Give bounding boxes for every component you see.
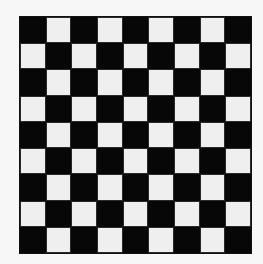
board-square <box>225 96 251 122</box>
board-square <box>123 96 149 122</box>
board-square <box>200 122 226 148</box>
board-square <box>225 227 251 253</box>
board-square <box>71 17 97 43</box>
board-square <box>46 148 72 174</box>
board-square <box>148 122 174 148</box>
board-square <box>148 96 174 122</box>
board-square <box>97 148 123 174</box>
board-square <box>46 174 72 200</box>
board-square <box>174 43 200 69</box>
board-square <box>123 201 149 227</box>
board-square <box>71 148 97 174</box>
board-square <box>200 17 226 43</box>
board-square <box>46 17 72 43</box>
board-square <box>46 122 72 148</box>
board-square <box>225 148 251 174</box>
board-square <box>200 96 226 122</box>
board-square <box>46 201 72 227</box>
board-square <box>123 69 149 95</box>
board-square <box>71 69 97 95</box>
board-square <box>174 17 200 43</box>
board-square <box>200 174 226 200</box>
board-square <box>174 201 200 227</box>
board-square <box>123 43 149 69</box>
board-square <box>200 227 226 253</box>
board-square <box>20 227 46 253</box>
board-square <box>225 17 251 43</box>
board-square <box>174 227 200 253</box>
board-square <box>148 43 174 69</box>
board-square <box>200 148 226 174</box>
board-square <box>20 201 46 227</box>
board-square <box>46 96 72 122</box>
board-square <box>123 148 149 174</box>
board-square <box>71 43 97 69</box>
board-square <box>20 148 46 174</box>
board-square <box>174 174 200 200</box>
board-square <box>148 17 174 43</box>
board-square <box>71 122 97 148</box>
board-square <box>225 174 251 200</box>
board-square <box>97 69 123 95</box>
board-square <box>123 174 149 200</box>
board-square <box>148 69 174 95</box>
board-square <box>225 43 251 69</box>
board-square <box>20 122 46 148</box>
board-square <box>97 174 123 200</box>
board-square <box>225 69 251 95</box>
board-square <box>46 227 72 253</box>
board-square <box>71 201 97 227</box>
board-square <box>174 69 200 95</box>
board-square <box>200 69 226 95</box>
board-square <box>174 96 200 122</box>
board-square <box>200 201 226 227</box>
board-square <box>20 43 46 69</box>
board-square <box>123 17 149 43</box>
board-square <box>46 43 72 69</box>
board-square <box>97 96 123 122</box>
board-square <box>174 148 200 174</box>
board-square <box>20 174 46 200</box>
board-square <box>71 96 97 122</box>
board-square <box>20 96 46 122</box>
checkerboard <box>19 16 252 254</box>
board-square <box>225 122 251 148</box>
board-square <box>148 227 174 253</box>
board-square <box>148 148 174 174</box>
board-square <box>97 122 123 148</box>
board-square <box>20 69 46 95</box>
board-square <box>97 17 123 43</box>
board-square <box>225 201 251 227</box>
board-square <box>46 69 72 95</box>
board-square <box>97 201 123 227</box>
board-square <box>123 227 149 253</box>
board-square <box>123 122 149 148</box>
board-square <box>148 174 174 200</box>
board-square <box>174 122 200 148</box>
board-square <box>200 43 226 69</box>
board-square <box>71 227 97 253</box>
board-square <box>20 17 46 43</box>
board-square <box>71 174 97 200</box>
board-square <box>97 227 123 253</box>
board-square <box>97 43 123 69</box>
board-square <box>148 201 174 227</box>
